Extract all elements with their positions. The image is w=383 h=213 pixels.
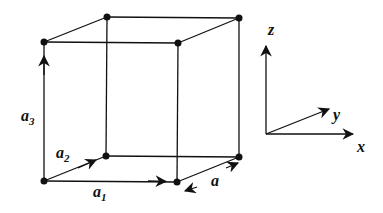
cube-edges: [44, 17, 239, 182]
a-arrow-forward-icon: [226, 163, 238, 168]
label-z: z: [267, 21, 275, 38]
label-a3: a3: [21, 107, 35, 127]
y-axis-arrow-icon: [266, 109, 329, 134]
label-a2: a2: [56, 144, 70, 164]
lattice-vector-arrows: [44, 56, 238, 191]
a1-arrow-icon: [148, 181, 166, 182]
a2-arrow-icon: [78, 160, 96, 168]
lattice-points: [41, 14, 243, 186]
label-a1: a1: [93, 183, 107, 203]
a-arrow-back-icon: [185, 187, 197, 191]
label-x: x: [356, 138, 365, 155]
label-y: y: [331, 106, 341, 124]
cubic-lattice-diagram: a3 a2 a1 a z y x: [0, 0, 383, 213]
label-a: a: [211, 172, 219, 189]
